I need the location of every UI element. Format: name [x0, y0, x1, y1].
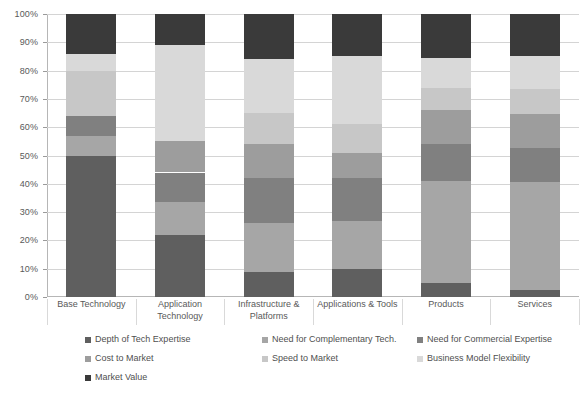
bar-segment[interactable] — [244, 59, 294, 113]
bar-segment[interactable] — [510, 148, 560, 182]
legend-item[interactable]: Need for Complementary Tech. — [262, 334, 396, 345]
x-axis-separator — [579, 299, 580, 325]
y-axis-tick-label: 0% — [25, 292, 38, 302]
legend-label: Cost to Market — [95, 353, 154, 364]
bar-segment[interactable] — [421, 88, 471, 111]
bar-segment[interactable] — [155, 173, 205, 203]
bar-segment[interactable] — [66, 116, 116, 136]
bar-segment[interactable] — [155, 141, 205, 172]
y-axis-tick-label: 40% — [20, 179, 38, 189]
bar-segment[interactable] — [66, 156, 116, 298]
bar-segment[interactable] — [332, 269, 382, 297]
bar-segment[interactable] — [421, 283, 471, 297]
bar-group[interactable] — [47, 14, 136, 297]
legend-swatch-icon — [417, 356, 423, 362]
x-axis-tick-label: Application Technology — [136, 299, 225, 322]
bar-segment[interactable] — [244, 144, 294, 178]
y-axis-tick-label: 70% — [20, 94, 38, 104]
bar-segment[interactable] — [332, 178, 382, 220]
x-axis-separator — [47, 299, 48, 325]
x-axis-tick-label: Services — [490, 299, 579, 311]
legend-swatch-icon — [262, 356, 268, 362]
bar-segment[interactable] — [510, 89, 560, 114]
legend-label: Need for Complementary Tech. — [272, 334, 396, 345]
bar-segment[interactable] — [510, 114, 560, 148]
legend-item[interactable]: Market Value — [85, 372, 147, 383]
bar-segment[interactable] — [244, 14, 294, 59]
legend-item[interactable]: Speed to Market — [262, 353, 338, 364]
legend-label: Speed to Market — [272, 353, 338, 364]
y-axis-tick-label: 20% — [20, 235, 38, 245]
y-axis-tick-label: 50% — [20, 151, 38, 161]
legend-swatch-icon — [85, 356, 91, 362]
y-axis-tick — [43, 297, 47, 298]
bar-segment[interactable] — [332, 221, 382, 269]
stacked-bar-chart: 100%90%80%70%60%50%40%30%20%10%0% Base T… — [0, 0, 586, 401]
bar-group[interactable] — [224, 14, 313, 297]
y-axis-tick-label: 10% — [20, 264, 38, 274]
bar-segment[interactable] — [244, 223, 294, 271]
legend-label: Business Model Flexibility — [427, 353, 530, 364]
y-axis-tick-label: 90% — [20, 37, 38, 47]
y-axis-labels: 100%90%80%70%60%50%40%30%20%10%0% — [0, 14, 43, 297]
bar-group[interactable] — [313, 14, 402, 297]
bar-segment[interactable] — [155, 235, 205, 297]
bar-segment[interactable] — [332, 124, 382, 152]
y-axis-tick-label: 30% — [20, 207, 38, 217]
legend-swatch-icon — [417, 337, 423, 343]
bar-segment[interactable] — [421, 58, 471, 88]
bars-layer — [47, 14, 579, 297]
legend-item[interactable]: Need for Commercial Expertise — [417, 334, 552, 345]
bar-segment[interactable] — [332, 14, 382, 56]
bar-segment[interactable] — [510, 56, 560, 89]
x-axis-labels: Base TechnologyApplication TechnologyInf… — [47, 299, 579, 327]
bar-segment[interactable] — [66, 54, 116, 71]
bar-segment[interactable] — [421, 110, 471, 144]
bar-segment[interactable] — [66, 71, 116, 116]
x-axis-tick-label: Applications & Tools — [313, 299, 402, 311]
bar-stack[interactable] — [244, 14, 294, 297]
legend-label: Market Value — [95, 372, 147, 383]
bar-segment[interactable] — [244, 178, 294, 223]
bar-segment[interactable] — [510, 290, 560, 297]
bar-segment[interactable] — [332, 56, 382, 124]
bar-stack[interactable] — [510, 14, 560, 297]
legend-swatch-icon — [85, 375, 91, 381]
x-axis-tick-label: Infrastructure & Platforms — [224, 299, 313, 322]
y-axis-tick-label: 80% — [20, 66, 38, 76]
y-axis-tick-label: 60% — [20, 122, 38, 132]
legend-item[interactable]: Depth of Tech Expertise — [85, 334, 190, 345]
bar-segment[interactable] — [244, 113, 294, 144]
legend-item[interactable]: Cost to Market — [85, 353, 154, 364]
legend-label: Need for Commercial Expertise — [427, 334, 552, 345]
bar-stack[interactable] — [66, 14, 116, 297]
bar-segment[interactable] — [421, 144, 471, 181]
plot-area — [47, 14, 579, 297]
bar-segment[interactable] — [66, 136, 116, 156]
bar-group[interactable] — [490, 14, 579, 297]
bar-segment[interactable] — [421, 181, 471, 283]
bar-stack[interactable] — [421, 14, 471, 297]
chart-legend: Depth of Tech ExpertiseNeed for Compleme… — [47, 334, 579, 390]
legend-item[interactable]: Business Model Flexibility — [417, 353, 530, 364]
x-axis-tick-label: Base Technology — [47, 299, 136, 311]
bar-segment[interactable] — [421, 14, 471, 58]
legend-swatch-icon — [85, 337, 91, 343]
bar-segment[interactable] — [155, 45, 205, 141]
x-axis-tick-label: Products — [402, 299, 491, 311]
bar-segment[interactable] — [510, 182, 560, 290]
bar-segment[interactable] — [155, 202, 205, 235]
legend-swatch-icon — [262, 337, 268, 343]
legend-label: Depth of Tech Expertise — [95, 334, 190, 345]
bar-group[interactable] — [402, 14, 491, 297]
bar-segment[interactable] — [244, 272, 294, 297]
bar-segment[interactable] — [332, 153, 382, 178]
bar-segment[interactable] — [510, 14, 560, 56]
bar-group[interactable] — [136, 14, 225, 297]
bar-segment[interactable] — [66, 14, 116, 54]
bar-stack[interactable] — [155, 14, 205, 297]
bar-segment[interactable] — [155, 14, 205, 45]
bar-stack[interactable] — [332, 14, 382, 297]
y-axis-tick-label: 100% — [15, 9, 38, 19]
